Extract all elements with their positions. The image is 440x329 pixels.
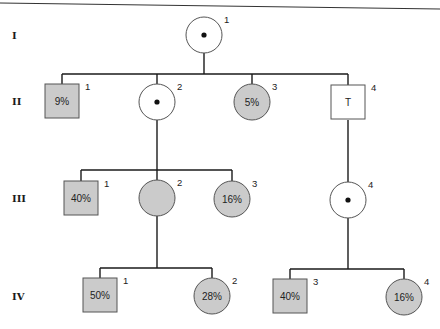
individual-number: 1 [85,81,90,92]
individual-iv-1: 50%1 [83,275,128,312]
female-circle-icon [139,180,175,216]
risk-value: 9% [55,96,70,107]
individual-number: 2 [177,81,182,92]
individual-iii-2: 2 [139,177,182,216]
individual-number: 2 [232,275,237,286]
generation-label: IV [12,291,25,302]
individual-number: 4 [368,179,373,190]
individual-number: 1 [123,275,128,286]
individual-number: 4 [424,276,429,287]
individual-ii-2: 2 [139,81,182,120]
risk-value: 40% [71,193,91,204]
individual-ii-4: T4 [331,82,376,119]
generation-label: II [12,96,22,107]
risk-value: 50% [90,290,110,301]
individual-number: 3 [272,81,277,92]
individuals: 19%125%3T440%1216%3450%128%240%316%4 [45,14,429,315]
risk-value: 28% [202,291,222,302]
individual-ii-3: 5%3 [234,81,277,120]
risk-value: 5% [245,97,260,108]
risk-value: T [345,97,351,108]
top-border-rule [0,3,440,9]
risk-value: 16% [394,292,414,303]
individual-iv-2: 28%2 [194,275,237,314]
individual-ii-1: 9%1 [45,81,90,118]
individual-number: 1 [224,14,229,25]
individual-number: 2 [177,177,182,188]
individual-number: 3 [313,276,318,287]
pedigree-diagram: IIIIIIIV 19%125%3T440%1216%3450%128%240%… [0,0,440,329]
risk-value: 40% [280,291,300,302]
risk-value: 16% [222,194,242,205]
individual-iii-1: 40%1 [64,178,109,215]
individual-iv-4: 16%4 [386,276,429,315]
individual-iv-3: 40%3 [273,276,318,313]
individual-number: 1 [104,178,109,189]
generation-label: I [12,30,17,41]
individual-iii-3: 16%3 [214,178,257,217]
individual-i-1: 1 [186,14,229,53]
individual-iii-4: 4 [330,179,373,218]
carrier-dot-icon [345,197,350,202]
individual-number: 4 [371,82,376,93]
generation-labels: IIIIIIIV [12,30,26,302]
generation-label: III [12,193,26,204]
individual-number: 3 [252,178,257,189]
carrier-dot-icon [201,32,206,37]
carrier-dot-icon [154,99,159,104]
